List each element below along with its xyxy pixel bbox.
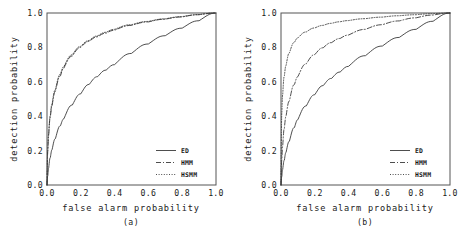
- roc-chart-b: 0.0 0.2 0.4 0.6 0.8 1.0 0.0 0.2 0.4 0.6 …: [237, 0, 474, 233]
- x-tick-label: 1.0: [208, 188, 224, 198]
- y-tick-label: 1.0: [27, 8, 43, 18]
- x-tick-label: 0.6: [141, 188, 157, 198]
- x-tick-label: 0.8: [408, 188, 424, 198]
- y-tick-label: 1.0: [261, 8, 277, 18]
- panel-caption: (a): [123, 217, 139, 227]
- panel-caption: (b): [357, 217, 373, 227]
- y-tick-label: 0.2: [261, 146, 277, 156]
- legend-label: HSMM: [415, 171, 431, 179]
- y-tick-labels-b: 0.0 0.2 0.4 0.6 0.8 1.0: [261, 8, 277, 190]
- x-tick-label: 0.0: [273, 188, 289, 198]
- x-axis-title: false alarm probability: [296, 203, 433, 213]
- figure-container: 0.0 0.2 0.4 0.6 0.8 1.0 0.0 0.2 0.4 0.6 …: [0, 0, 474, 233]
- x-tick-label: 0.8: [174, 188, 190, 198]
- legend-b: ED HMM HSMM: [386, 142, 446, 182]
- legend-a: ED HMM HSMM: [152, 142, 212, 182]
- x-tick-labels-b: 0.0 0.2 0.4 0.6 0.8 1.0: [273, 188, 458, 198]
- chart-panel-b: 0.0 0.2 0.4 0.6 0.8 1.0 0.0 0.2 0.4 0.6 …: [237, 0, 474, 233]
- y-axis-title: detection probability: [9, 36, 19, 161]
- y-tick-label: 0.8: [261, 42, 277, 52]
- x-tick-label: 0.2: [307, 188, 323, 198]
- x-axis-title: false alarm probability: [62, 203, 199, 213]
- y-tick-label: 0.6: [261, 77, 277, 87]
- x-tick-label: 0.2: [73, 188, 89, 198]
- chart-panel-a: 0.0 0.2 0.4 0.6 0.8 1.0 0.0 0.2 0.4 0.6 …: [0, 0, 237, 233]
- x-tick-label: 1.0: [442, 188, 458, 198]
- legend-label: ED: [415, 147, 423, 155]
- y-tick-label: 0.4: [261, 111, 277, 121]
- legend-label: ED: [181, 147, 189, 155]
- roc-chart-a: 0.0 0.2 0.4 0.6 0.8 1.0 0.0 0.2 0.4 0.6 …: [0, 0, 237, 233]
- y-tick-label: 0.4: [27, 111, 43, 121]
- legend-label: HMM: [181, 159, 193, 167]
- x-tick-label: 0.4: [341, 188, 357, 198]
- y-tick-label: 0.2: [27, 146, 43, 156]
- x-tick-label: 0.4: [107, 188, 123, 198]
- x-tick-label: 0.0: [39, 188, 55, 198]
- x-tick-labels-a: 0.0 0.2 0.4 0.6 0.8 1.0: [39, 188, 224, 198]
- y-axis-title: detection probability: [243, 36, 253, 161]
- legend-label: HSMM: [181, 171, 197, 179]
- y-tick-label: 0.6: [27, 77, 43, 87]
- y-tick-label: 0.8: [27, 42, 43, 52]
- legend-label: HMM: [415, 159, 427, 167]
- x-tick-label: 0.6: [375, 188, 391, 198]
- y-tick-labels-a: 0.0 0.2 0.4 0.6 0.8 1.0: [27, 8, 43, 190]
